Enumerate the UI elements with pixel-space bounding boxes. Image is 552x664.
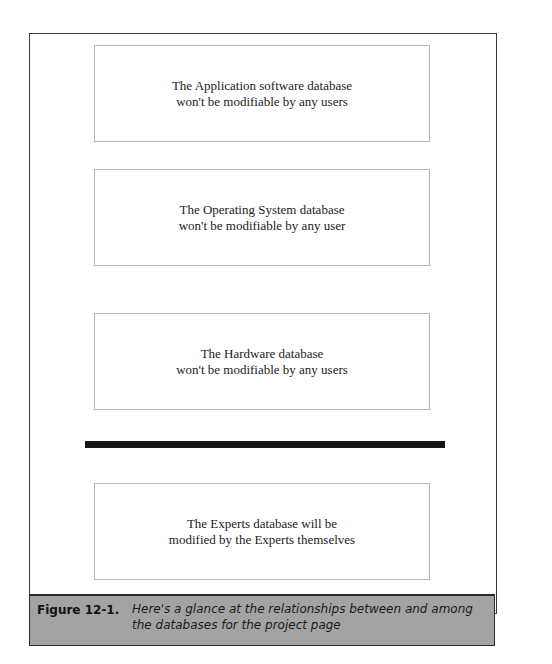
- box-text-line2: won't be modifiable by any user: [179, 218, 346, 234]
- application-software-db-box: The Application software database won't …: [94, 45, 430, 142]
- divider-bar: [85, 441, 445, 448]
- box-text-line1: The Operating System database: [180, 202, 345, 218]
- box-text-line1: The Application software database: [172, 78, 352, 94]
- figure-caption: Figure 12-1. Here's a glance at the rela…: [29, 594, 495, 646]
- box-text-line2: won't be modifiable by any users: [176, 362, 348, 378]
- box-text-line2: modified by the Experts themselves: [169, 532, 355, 548]
- box-text-line1: The Experts database will be: [187, 516, 337, 532]
- box-text-line1: The Hardware database: [201, 346, 324, 362]
- caption-text: Here's a glance at the relationships bet…: [132, 601, 482, 633]
- caption-label: Figure 12-1.: [37, 603, 119, 617]
- operating-system-db-box: The Operating System database won't be m…: [94, 169, 430, 266]
- hardware-db-box: The Hardware database won't be modifiabl…: [94, 313, 430, 410]
- box-text-line2: won't be modifiable by any users: [176, 94, 348, 110]
- experts-db-box: The Experts database will be modified by…: [94, 483, 430, 580]
